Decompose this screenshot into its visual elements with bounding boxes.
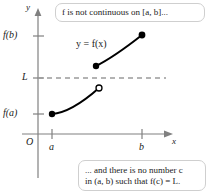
origin-label: O [26, 136, 33, 147]
point-filled-fa [49, 111, 55, 117]
callout-bottom-line-2: in (a, b) such that f(c) = L. [85, 176, 200, 187]
y-tick-label-L: L [22, 71, 28, 82]
point-open-discontinuity [96, 85, 102, 91]
callout-top-text: f is not continuous on [a, b]... [62, 7, 168, 17]
callout-bottom-line-1: ... and there is no number c [85, 165, 200, 176]
callout-no-number-c: ... and there is no number c in (a, b) s… [78, 160, 206, 191]
x-tick-label-a: a [49, 141, 54, 152]
y-tick-label-fb: f(b) [3, 29, 17, 40]
x-tick-label-b: b [139, 141, 144, 152]
callout-not-continuous: f is not continuous on [a, b]... [55, 3, 205, 22]
point-filled-jump [93, 63, 99, 69]
curve-label: y = f(x) [76, 38, 107, 49]
point-filled-fb [139, 32, 146, 39]
y-tick-label-fa: f(a) [3, 107, 17, 118]
y-axis-arrowhead [35, 8, 42, 16]
y-axis-label: y [26, 2, 30, 12]
intermediate-value-theorem-figure: y x O f(b) L f(a) a b y = f(x) f is not … [0, 0, 207, 191]
x-axis-label: x [172, 136, 176, 146]
curve-branch-left [52, 88, 99, 114]
